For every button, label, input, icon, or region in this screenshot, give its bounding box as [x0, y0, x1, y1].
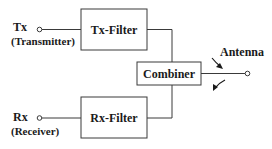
- tx-filter-label: Tx-Filter: [91, 23, 138, 37]
- rx-label: Rx: [13, 110, 28, 124]
- rx-filter-label: Rx-Filter: [90, 111, 138, 125]
- tx-sublabel: (Transmitter): [11, 35, 75, 48]
- combiner-label: Combiner: [143, 67, 196, 81]
- incoming-signal-arrow-icon: [212, 58, 223, 69]
- rx-port-icon: [37, 116, 42, 121]
- tx-filter-to-combiner-line: [147, 30, 172, 63]
- tx-label: Tx: [13, 20, 27, 34]
- duplexer-diagram: Tx (Transmitter) Tx-Filter Combiner Rx-F…: [0, 0, 272, 149]
- tx-port-icon: [37, 27, 42, 32]
- combiner-to-rx-filter-line: [147, 85, 172, 118]
- antenna-label: Antenna: [220, 45, 264, 59]
- antenna-port-icon: [245, 71, 250, 76]
- rx-sublabel: (Receiver): [11, 125, 60, 138]
- outgoing-signal-arrow-icon: [213, 80, 225, 91]
